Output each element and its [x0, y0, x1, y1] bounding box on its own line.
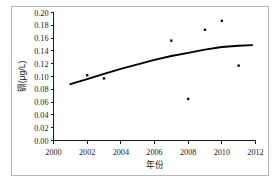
trend-line — [70, 45, 252, 84]
x-tick-label: 2004 — [113, 148, 129, 157]
y-tick-label: 0.04 — [34, 111, 48, 120]
y-axis-title: 镉(μg/L) — [16, 61, 27, 93]
data-point — [187, 98, 189, 100]
data-point — [86, 74, 88, 76]
data-point — [103, 77, 105, 79]
y-tick-label: 0.02 — [34, 124, 48, 133]
y-tick-label: 0.08 — [34, 85, 48, 94]
x-tick-label: 2006 — [146, 148, 162, 157]
data-point — [170, 39, 172, 41]
x-tick-label: 2000 — [45, 148, 61, 157]
y-tick-label: 0.20 — [34, 9, 48, 18]
y-tick-label: 0.18 — [34, 21, 48, 30]
y-tick-label: 0.14 — [34, 47, 48, 56]
x-axis-title: 年份 — [146, 159, 164, 170]
x-tick-label: 2010 — [214, 148, 230, 157]
y-tick-label: 0.00 — [34, 137, 48, 146]
y-tick-label: 0.06 — [34, 98, 48, 107]
figure-container: 0.000.020.040.060.080.100.120.140.160.18… — [0, 0, 280, 183]
x-tick-label: 2002 — [79, 148, 95, 157]
data-point — [237, 64, 239, 66]
y-tick-label: 0.12 — [34, 60, 48, 69]
y-tick-label: 0.10 — [34, 73, 48, 82]
axis-lines — [54, 13, 256, 141]
cadmium-trend-chart: 0.000.020.040.060.080.100.120.140.160.18… — [0, 0, 280, 183]
data-point — [204, 29, 206, 31]
data-point — [221, 20, 223, 22]
x-tick-label: 2012 — [247, 148, 263, 157]
x-tick-label: 2008 — [180, 148, 196, 157]
y-tick-label: 0.16 — [34, 34, 48, 43]
